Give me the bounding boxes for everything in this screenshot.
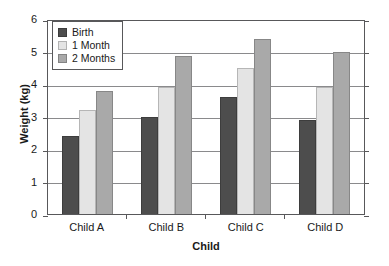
- bar-group: [285, 21, 364, 214]
- bar: [141, 117, 158, 215]
- y-axis-tick-label: 1: [11, 177, 37, 188]
- chart-legend: Birth1 Month2 Months: [52, 21, 123, 70]
- bar: [254, 39, 271, 215]
- x-axis-title: Child: [47, 240, 365, 252]
- y-axis-tick-label: 6: [11, 14, 37, 25]
- legend-label: Birth: [72, 26, 94, 39]
- bar: [316, 87, 333, 214]
- legend-label: 2 Months: [72, 52, 115, 65]
- legend-item: Birth: [58, 26, 115, 39]
- y-axis-tick-label: 2: [11, 144, 37, 155]
- bar: [175, 56, 192, 214]
- x-axis-tick-labels: Child AChild BChild CChild D: [47, 221, 365, 233]
- y-axis-tick: [364, 86, 369, 87]
- bar: [62, 136, 79, 214]
- x-axis-tick-label: Child B: [127, 221, 207, 233]
- y-axis-tick: [364, 151, 369, 152]
- x-axis-tick: [126, 214, 127, 219]
- y-axis-tick: [364, 216, 369, 217]
- bar-chart: Weight (kg) 0123456 Child AChild BChild …: [0, 0, 389, 266]
- bar: [220, 97, 237, 214]
- legend-item: 1 Month: [58, 39, 115, 52]
- legend-swatch: [58, 54, 67, 63]
- bar-group: [206, 21, 285, 214]
- y-axis-tick: [364, 118, 369, 119]
- y-axis-tick-label: 0: [11, 209, 37, 220]
- bar: [158, 87, 175, 214]
- legend-label: 1 Month: [72, 39, 110, 52]
- y-axis-tick: [43, 216, 48, 217]
- x-axis-tick-label: Child A: [47, 221, 127, 233]
- x-axis-tick: [205, 214, 206, 219]
- bar: [96, 91, 113, 215]
- x-axis-tick: [284, 214, 285, 219]
- legend-swatch: [58, 28, 67, 37]
- bar: [79, 110, 96, 214]
- y-axis-tick: [364, 53, 369, 54]
- y-axis-tick-label: 5: [11, 47, 37, 58]
- bar: [333, 52, 350, 215]
- y-axis-tick-label: 3: [11, 112, 37, 123]
- y-axis-tick-label: 4: [11, 79, 37, 90]
- x-axis-tick-label: Child C: [206, 221, 286, 233]
- x-axis-tick-label: Child D: [286, 221, 366, 233]
- y-axis-tick: [364, 21, 369, 22]
- bar: [299, 120, 316, 214]
- legend-item: 2 Months: [58, 52, 115, 65]
- bar: [237, 68, 254, 214]
- legend-swatch: [58, 41, 67, 50]
- y-axis-tick: [364, 183, 369, 184]
- bar-group: [127, 21, 206, 214]
